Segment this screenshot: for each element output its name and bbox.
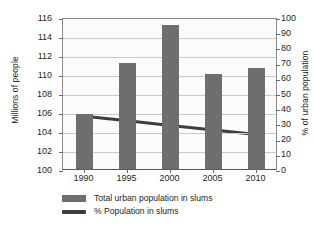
bar-2000 xyxy=(162,25,179,169)
y-axis-left-tickmark xyxy=(59,38,63,39)
y-axis-left-ticks: 116114112110108106104102100 xyxy=(26,14,52,170)
bar-1990 xyxy=(76,114,93,169)
y-axis-left-tickmark xyxy=(59,95,63,96)
y-axis-left-tickmark xyxy=(59,76,63,77)
y-axis-right-tickmark xyxy=(276,65,280,66)
y-axis-right-tickmark xyxy=(276,34,280,35)
x-axis-tickmark xyxy=(170,169,171,173)
bar-swatch-icon xyxy=(62,195,86,202)
y-axis-left-title: Millions of people xyxy=(10,35,20,145)
y-axis-right-tickmark xyxy=(276,110,280,111)
x-axis-tick-label-1995: 1995 xyxy=(107,173,147,183)
x-axis-tick-label-2005: 2005 xyxy=(193,173,233,183)
legend-item-bars: Total urban population in slums xyxy=(62,192,302,205)
y-axis-right-tick-label: 90 xyxy=(281,29,291,38)
y-axis-right-ticks: 1009080706050403020100 xyxy=(281,14,307,170)
y-axis-right-tick-label: 20 xyxy=(281,135,291,144)
bar-2005 xyxy=(205,74,222,169)
bar-2010 xyxy=(248,68,265,169)
y-axis-left-tickmark xyxy=(59,133,63,134)
y-axis-left-tick-label: 106 xyxy=(37,109,52,118)
x-axis-tickmark xyxy=(127,169,128,173)
y-axis-left-tick-label: 104 xyxy=(37,128,52,137)
y-axis-right-tickmark xyxy=(276,95,280,96)
y-axis-right-tick-label: 30 xyxy=(281,120,291,129)
x-axis-labels: 19901995200020052010 xyxy=(62,173,277,187)
y-axis-left-tick-label: 112 xyxy=(38,52,52,61)
y-axis-right-tick-label: 60 xyxy=(281,74,291,83)
y-axis-right-tickmark xyxy=(276,80,280,81)
y-axis-right-tickmark xyxy=(276,19,280,20)
y-axis-right-tick-label: 80 xyxy=(281,44,291,53)
y-axis-right-tickmark xyxy=(276,141,280,142)
legend-item-line: % Population in slums xyxy=(62,205,302,218)
y-axis-left-tick-label: 102 xyxy=(37,147,52,156)
y-axis-right-tickmark xyxy=(276,125,280,126)
x-axis-tick-label-2000: 2000 xyxy=(150,173,190,183)
x-axis-tickmark xyxy=(84,169,85,173)
y-axis-left-tickmark xyxy=(59,57,63,58)
x-axis-tickmark xyxy=(256,169,257,173)
y-axis-left-tick-label: 100 xyxy=(37,166,52,175)
x-axis-tick-label-2010: 2010 xyxy=(236,173,276,183)
y-axis-right-tick-label: 40 xyxy=(281,105,291,114)
y-axis-right-tick-label: 10 xyxy=(281,150,291,159)
y-axis-left-tickmark xyxy=(59,152,63,153)
y-axis-right-tick-label: 100 xyxy=(281,14,296,23)
y-axis-left-tickmark xyxy=(59,114,63,115)
y-axis-right-tickmark xyxy=(276,171,280,172)
y-axis-left-tick-label: 110 xyxy=(38,71,52,80)
legend-label-bars: Total urban population in slums xyxy=(94,194,212,203)
y-axis-left-tick-label: 108 xyxy=(37,90,52,99)
legend-label-line: % Population in slums xyxy=(94,207,179,216)
y-axis-right-tick-label: 0 xyxy=(281,166,286,175)
bar-1995 xyxy=(119,63,136,169)
y-axis-right-tickmark xyxy=(276,156,280,157)
slum-population-chart: Millions of people % of urban population… xyxy=(0,0,315,225)
y-axis-right-tick-label: 50 xyxy=(281,90,291,99)
y-axis-right-tick-label: 70 xyxy=(281,59,291,68)
x-axis-tick-label-1990: 1990 xyxy=(64,173,104,183)
plot-area xyxy=(62,18,277,170)
y-axis-left-tickmark xyxy=(59,19,63,20)
x-axis-tickmark xyxy=(213,169,214,173)
line-swatch-icon xyxy=(62,210,86,214)
y-axis-left-tick-label: 116 xyxy=(38,14,52,23)
chart-legend: Total urban population in slums % Popula… xyxy=(62,192,302,218)
y-axis-left-tickmark xyxy=(59,171,63,172)
y-axis-right-tickmark xyxy=(276,49,280,50)
y-axis-left-tick-label: 114 xyxy=(38,33,52,42)
